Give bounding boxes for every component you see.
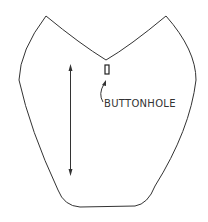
buttonhole-mark	[105, 65, 109, 74]
buttonhole-label: BUTTONHOLE	[104, 98, 176, 109]
grainline-arrow	[69, 64, 73, 176]
pattern-diagram	[0, 0, 208, 222]
pattern-outline	[19, 16, 196, 207]
